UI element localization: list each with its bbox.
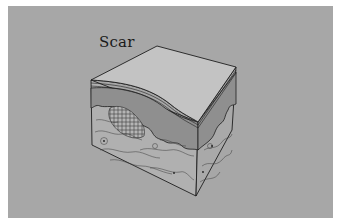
scar-label: Scar [99,33,135,51]
skin-block-diagram [0,0,342,224]
